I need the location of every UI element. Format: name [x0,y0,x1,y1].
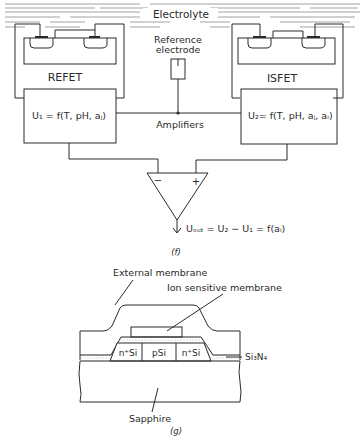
isfet-refet-diagram: Electrolyte REFET ISFET Reference electr… [0,0,363,436]
sapphire-label: Sapphire [129,413,171,424]
caption-g: (g) [170,426,182,436]
output-equation: Uₒᵤₜ = U₂ − U₁ = f(aᵢ) [186,223,285,234]
refet-label: REFET [48,71,83,84]
amplifier-u2: U₂= f(T, pH, aⱼ, aᵢ) [241,89,337,144]
ion-sensitive-membrane-label: Ion sensitive membrane [167,282,282,293]
isfet-sensor: ISFET [232,24,343,98]
reference-electrode: Reference electrode [154,34,202,115]
isfet-label: ISFET [267,72,298,85]
u2-equation: U₂= f(T, pH, aⱼ, aᵢ) [248,110,333,121]
p-si-label: pSi [152,348,166,358]
electrolyte-label: Electrolyte [153,8,209,20]
amplifier-u1: U₁ = f(T, pH, aⱼ) [24,89,116,143]
caption-f: (f) [171,247,181,257]
minus-input-label: − [154,175,162,186]
u1-equation: U₁ = f(T, pH, aⱼ) [32,110,106,121]
electrolyte-region: Electrolyte [5,4,360,27]
n-si-right-label: n⁺Si [182,348,201,358]
n-si-left-label: n⁺Si [119,348,138,358]
refet-sensor: REFET [15,24,124,98]
sos-isfet-cross-section: External membrane Ion sensitive membrane… [79,267,282,424]
differential-amplifier: − + Uₒᵤₜ = U₂ − U₁ = f(aᵢ) [69,143,287,234]
reference-electrode-label-2: electrode [156,44,201,55]
amplifiers-label: Amplifiers [156,119,204,130]
external-membrane-label: External membrane [113,267,208,278]
plus-input-label: + [192,176,200,187]
si3n4-label: Si₃N₄ [245,352,268,362]
